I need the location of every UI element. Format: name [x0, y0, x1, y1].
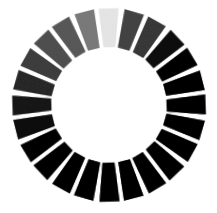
ring-svg-canvas — [0, 0, 217, 213]
grayscale-patch-ring-figure — [0, 0, 217, 213]
